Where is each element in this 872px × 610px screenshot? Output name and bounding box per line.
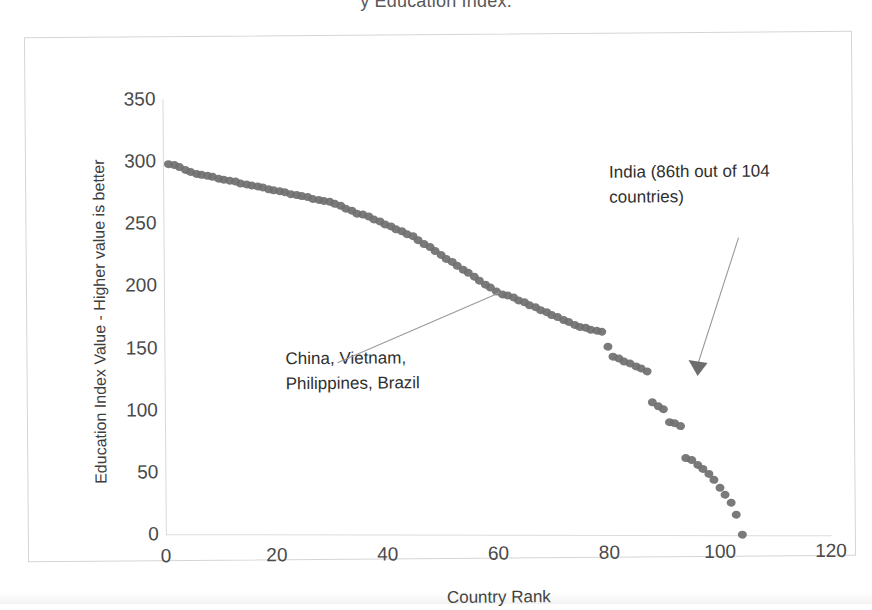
y-axis-title: Education Index Value - Higher value is … [90, 122, 111, 522]
x-tick-label: 20 [266, 544, 287, 566]
data-point [603, 343, 612, 351]
x-tick-label: 80 [599, 542, 620, 564]
clipped-chart-title: y Education Index. [0, 0, 872, 11]
data-point [721, 491, 730, 499]
x-tick-label: 0 [161, 545, 172, 567]
x-tick-label: 100 [704, 541, 736, 563]
data-point [676, 422, 685, 430]
data-point [659, 406, 668, 414]
data-point [732, 511, 741, 519]
data-point [738, 531, 747, 539]
x-tick-label: 60 [488, 542, 509, 564]
data-point [598, 328, 607, 336]
data-point [710, 476, 719, 484]
x-tick-label: 120 [815, 540, 847, 562]
x-tick-label: 40 [377, 543, 398, 565]
scan-edge-shadow [0, 592, 872, 604]
data-point [642, 367, 651, 375]
chart-frame: 050100150200250300350 020406080100120 Ed… [24, 31, 856, 562]
annotation-india-label: India (86th out of 104 countries) [609, 158, 770, 209]
data-point [726, 498, 735, 506]
annotation-cluster-label: China, Vietnam, Philippines, Brazil [285, 345, 420, 396]
